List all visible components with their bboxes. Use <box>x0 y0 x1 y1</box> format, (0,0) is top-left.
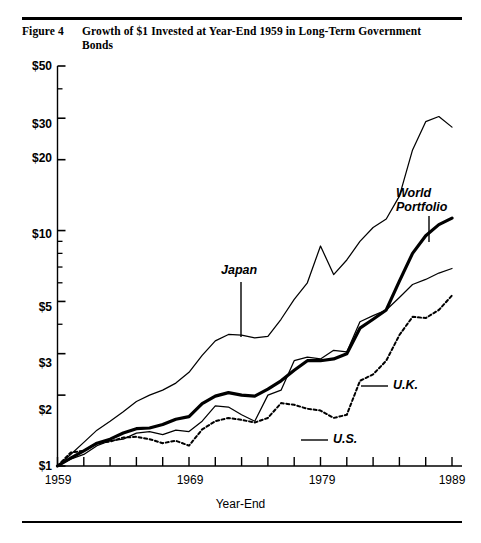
series-line-world-portfolio <box>58 218 453 466</box>
series-paths <box>58 117 453 466</box>
x-axis-ticks <box>58 457 453 466</box>
annotation-leaders <box>241 216 429 440</box>
chart-plot-area <box>0 0 481 543</box>
bottom-rule <box>22 521 462 523</box>
series-line-japan <box>58 117 453 466</box>
series-line-u-s- <box>58 295 453 466</box>
axis-lines <box>58 66 463 466</box>
y-axis-ticks <box>58 66 66 466</box>
figure-container: Figure 4Growth of $1 Invested at Year-En… <box>0 0 481 543</box>
